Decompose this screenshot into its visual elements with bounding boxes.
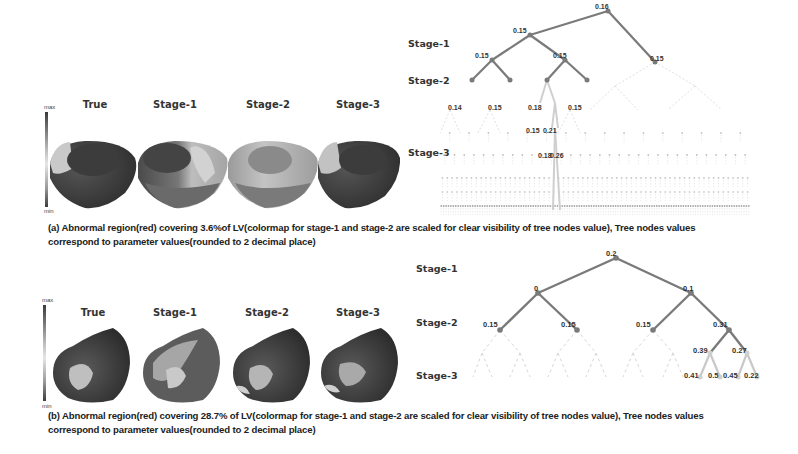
- tree-a-node-l1-left: 0.15: [513, 27, 527, 34]
- tree-a-node-l3-2: 0.18: [528, 104, 542, 111]
- column-title-stage-2-b: Stage-2: [245, 307, 289, 318]
- tree-b-node-l4-1: 0.5: [708, 371, 718, 380]
- heart-renderings-a: [45, 138, 400, 213]
- column-title-stage-1: Stage-1: [153, 99, 197, 110]
- colorbar-max-label-b: max: [42, 297, 53, 303]
- heart-true-b: [53, 328, 130, 403]
- column-title-stage-1-b: Stage-1: [153, 307, 197, 318]
- heart-stage-2-b: [233, 328, 310, 403]
- tree-b-stage-3-label: Stage-3: [416, 370, 458, 381]
- tree-b-node-l2-1: 0.15: [561, 320, 576, 329]
- heart-renderings-b: [48, 328, 400, 406]
- heart-stage-1-b: [143, 328, 220, 403]
- tree-a-leaf-rows: [440, 132, 740, 133]
- heart-stage-1: [138, 141, 228, 208]
- tree-a-node-l4-1: 0.21: [543, 127, 557, 134]
- column-title-stage-3: Stage-3: [336, 99, 380, 110]
- tree-b-node-l4-3: 0.22: [744, 371, 759, 380]
- tree-a-active-branches: [472, 11, 655, 80]
- heart-stage-3-b: [321, 328, 398, 403]
- tree-b-nodes: [497, 255, 732, 333]
- column-title-stage-3-b: Stage-3: [336, 307, 380, 318]
- tree-a-node-l1-right: 0.15: [650, 55, 664, 62]
- heart-stage-2: [228, 141, 318, 208]
- tree-b-node-l1-left: 0: [534, 284, 538, 293]
- caption-b-line1: (b) Abnormal region(red) covering 28.7% …: [48, 409, 788, 423]
- tree-b-node-l4-2: 0.45: [723, 371, 738, 380]
- tree-a-inactive-branches: [440, 62, 722, 133]
- tree-a-highlight-branches: [540, 80, 560, 210]
- tree-b-node-l4-0: 0.41: [684, 371, 699, 380]
- tree-b-node-l2-2: 0.15: [636, 320, 651, 329]
- colorbar-max-label: max: [44, 104, 55, 110]
- caption-b-line2: correspond to parameter values(rounded t…: [48, 423, 788, 437]
- column-title-stage-2: Stage-2: [246, 99, 290, 110]
- tree-b-node-root: 0.2: [606, 249, 616, 258]
- tree-a-node-l2-0: 0.15: [475, 52, 489, 59]
- heart-stage-3: [318, 141, 400, 208]
- heart-true: [50, 141, 136, 208]
- tree-a-node-l3-1: 0.15: [488, 104, 502, 111]
- tree-a: 0.16 0.15 0.15 0.15 0.15 0.14 0.15 0.18 …: [440, 0, 798, 215]
- tree-a-node-l2-1: 0.15: [553, 52, 567, 59]
- tree-b-node-l3-0: 0.39: [693, 346, 708, 355]
- tree-b-node-l3-1: 0.27: [732, 346, 747, 355]
- tree-a-node-l5-1: 0.26: [550, 152, 564, 159]
- tree-b-stage-1-label: Stage-1: [416, 263, 458, 274]
- tree-a-node-l3-0: 0.14: [448, 104, 462, 111]
- tree-b-node-l2-3: 0.31: [713, 320, 728, 329]
- caption-a-line1: (a) Abnormal region(red) covering 3.6%of…: [48, 221, 788, 235]
- tree-a-nodes: [470, 9, 658, 83]
- colorbar-b: [43, 305, 46, 401]
- column-title-true: True: [83, 99, 108, 110]
- tree-b: 0.2 0 0.1 0.15 0.15 0.15 0.31 0.39 0.27 …: [470, 245, 798, 410]
- column-title-true-b: True: [81, 307, 106, 318]
- tree-b-active-branches: [500, 258, 747, 353]
- tree-b-inactive-branches: [473, 330, 683, 377]
- tree-a-node-l3-3: 0.15: [568, 104, 582, 111]
- tree-a-node-l4-0: 0.15: [526, 127, 540, 134]
- tree-b-stage-2-label: Stage-2: [416, 317, 458, 328]
- tree-b-node-l1-right: 0.1: [683, 284, 693, 293]
- tree-a-node-root: 0.16: [595, 3, 609, 10]
- tree-b-node-l2-0: 0.15: [483, 320, 498, 329]
